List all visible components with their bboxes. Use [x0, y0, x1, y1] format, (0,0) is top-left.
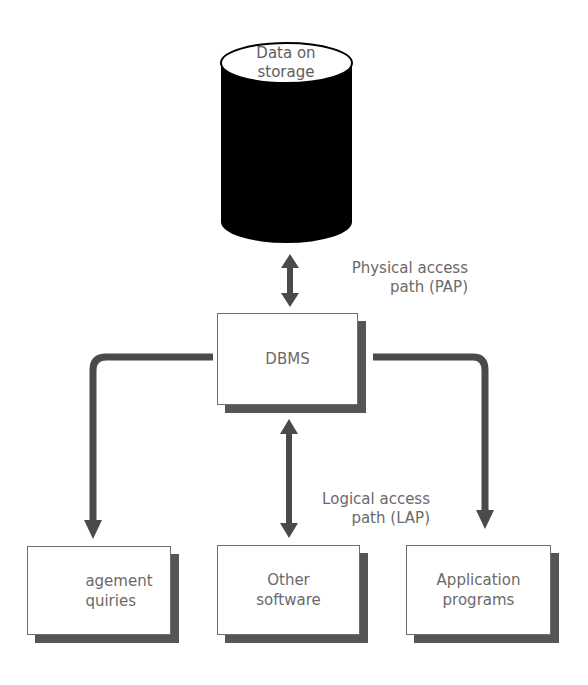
- application-programs-label: Application programs: [437, 570, 521, 610]
- logical-access-label: Logical access path (LAP): [300, 490, 430, 528]
- dbms-box[interactable]: DBMS: [217, 313, 358, 405]
- physical-access-line2: path (PAP): [318, 278, 468, 297]
- other-software-label: Other software: [256, 570, 320, 610]
- left-connector-arrow-icon: [84, 357, 213, 539]
- application-programs-line2: programs: [437, 590, 521, 610]
- management-queries-line1: agement: [85, 571, 152, 591]
- other-software-line1: Other: [256, 570, 320, 590]
- other-software-box[interactable]: Other software: [217, 545, 360, 635]
- logical-access-arrow-icon: [280, 419, 298, 538]
- physical-access-line1: Physical access: [318, 259, 468, 278]
- other-software-line2: software: [256, 590, 320, 610]
- physical-access-label: Physical access path (PAP): [318, 259, 468, 297]
- application-programs-line1: Application: [437, 570, 521, 590]
- physical-access-arrow-icon: [281, 254, 299, 307]
- storage-label: Data on storage: [226, 44, 346, 82]
- storage-label-line1: Data on: [226, 44, 346, 63]
- management-queries-box[interactable]: agement quiries: [27, 546, 171, 635]
- management-queries-line2: quiries: [85, 591, 152, 611]
- logical-access-line1: Logical access: [300, 490, 430, 509]
- management-queries-label: agement quiries: [85, 571, 152, 611]
- logical-access-line2: path (LAP): [300, 509, 430, 528]
- storage-label-line2: storage: [226, 63, 346, 82]
- application-programs-box[interactable]: Application programs: [406, 545, 551, 635]
- dbms-label: DBMS: [265, 349, 309, 369]
